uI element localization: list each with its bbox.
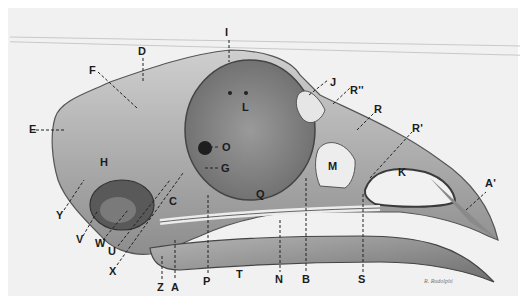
label-O: O — [222, 142, 231, 153]
label-K: K — [398, 167, 406, 178]
label-F: F — [89, 65, 96, 76]
artist-signature: R. Rudolphi — [424, 278, 453, 284]
label-I: I — [225, 27, 228, 38]
label-Z: Z — [157, 282, 164, 293]
label-R: R — [374, 104, 382, 115]
label-G: G — [221, 163, 230, 174]
label-S: S — [358, 274, 366, 285]
label-R-double-prime: R'' — [350, 85, 364, 96]
skull-illustration — [0, 0, 526, 308]
label-C: C — [169, 196, 177, 207]
label-L: L — [242, 102, 249, 113]
label-T: T — [236, 269, 243, 280]
label-P: P — [203, 276, 211, 287]
label-E: E — [29, 124, 37, 135]
label-D: D — [138, 46, 146, 57]
label-Y: Y — [56, 210, 64, 221]
label-M: M — [328, 161, 337, 172]
label-X: X — [109, 266, 117, 277]
label-J: J — [330, 77, 336, 88]
label-H: H — [100, 157, 108, 168]
label-R-prime: R' — [412, 123, 423, 134]
label-Q: Q — [256, 189, 265, 200]
label-A: A — [171, 282, 179, 293]
label-W: W — [95, 238, 106, 249]
label-N: N — [275, 274, 283, 285]
label-V: V — [76, 234, 84, 245]
label-U: U — [108, 246, 116, 257]
label-B: B — [302, 274, 310, 285]
label-A-prime: A' — [485, 178, 496, 189]
